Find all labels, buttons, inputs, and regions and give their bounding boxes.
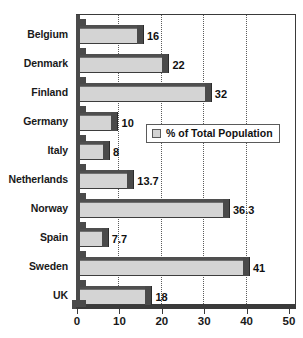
bar-end-cap — [243, 257, 250, 276]
axis-nub — [76, 222, 86, 229]
legend-entry-label: % of Total Population — [166, 128, 273, 139]
bar-body — [76, 28, 137, 44]
bar-end-cap — [111, 112, 118, 131]
bar-value-label: 41 — [253, 260, 265, 276]
category-label: Germany — [0, 116, 68, 127]
bar-top-edge — [80, 170, 131, 173]
bar-body — [76, 289, 145, 305]
bar-body — [76, 86, 205, 102]
bar-value-label: 8 — [113, 144, 119, 160]
category-label: Netherlands — [0, 174, 68, 185]
axis-nub — [76, 48, 86, 55]
bar-value-label: 36.3 — [233, 202, 254, 218]
bar-uk — [76, 286, 152, 305]
value-axis-spine — [76, 15, 80, 304]
bar-top-edge — [80, 25, 141, 28]
category-label: Italy — [0, 145, 68, 156]
x-tick-30 — [204, 309, 205, 314]
bar-body — [76, 260, 243, 276]
category-axis-labels: Belgium Denmark Finland Germany Italy Ne… — [0, 14, 72, 304]
bar-value-label: 16 — [147, 28, 159, 44]
bar-norway — [76, 199, 230, 218]
category-label: Belgium — [0, 29, 68, 40]
bar-top-edge — [80, 83, 209, 86]
bar-end-cap — [137, 25, 144, 44]
bar-end-cap — [127, 170, 134, 189]
bar-value-label: 13.7 — [137, 173, 158, 189]
category-label: Sweden — [0, 261, 68, 272]
bar-body — [76, 115, 111, 131]
bar-top-edge — [80, 54, 166, 57]
bar-body — [76, 173, 127, 189]
bar-value-label: 10 — [122, 115, 134, 131]
axis-nub — [76, 193, 86, 200]
x-tick-label: 40 — [240, 316, 253, 328]
x-tick-50 — [289, 309, 290, 314]
axis-nub — [76, 300, 86, 307]
bar-end-cap — [102, 228, 109, 247]
bar-denmark — [76, 54, 169, 73]
bar-value-label: 7.7 — [112, 231, 127, 247]
category-label: UK — [0, 290, 68, 301]
bar-netherlands — [76, 170, 134, 189]
x-tick-0 — [77, 309, 78, 314]
bar-spain — [76, 228, 109, 247]
axis-nub — [76, 164, 86, 171]
x-tick-label: 0 — [74, 316, 80, 328]
bar-end-cap — [223, 199, 230, 218]
bar-body — [76, 202, 223, 218]
axis-nub — [76, 106, 86, 113]
axis-nub — [76, 77, 86, 84]
bar-top-edge — [80, 199, 227, 202]
bar-body — [76, 144, 103, 160]
x-tick-10 — [119, 309, 120, 314]
category-label: Finland — [0, 87, 68, 98]
bar-top-edge — [80, 257, 247, 260]
x-tick-label: 50 — [283, 316, 296, 328]
bar-value-label: 18 — [156, 289, 168, 305]
bar-finland — [76, 83, 212, 102]
bar-germany — [76, 112, 118, 131]
bar-color-swatch-icon — [152, 129, 161, 138]
chart-legend: % of Total Population — [146, 124, 280, 143]
bar-body — [76, 57, 162, 73]
horizontal-bar-chart: Belgium Denmark Finland Germany Italy Ne… — [0, 0, 303, 338]
category-label: Denmark — [0, 58, 68, 69]
bar-end-cap — [162, 54, 169, 73]
category-label: Norway — [0, 203, 68, 214]
category-label: Spain — [0, 232, 68, 243]
bar-value-label: 22 — [172, 57, 184, 73]
x-tick-40 — [247, 309, 248, 314]
bar-end-cap — [205, 83, 212, 102]
bar-top-edge — [80, 286, 149, 289]
bar-end-cap — [103, 141, 110, 160]
x-tick-label: 30 — [198, 316, 211, 328]
bar-italy — [76, 141, 110, 160]
bar-sweden — [76, 257, 250, 276]
x-tick-20 — [162, 309, 163, 314]
axis-nub — [76, 135, 86, 142]
x-tick-label: 20 — [155, 316, 168, 328]
bar-belgium — [76, 25, 144, 44]
plot-area: 16 22 32 10 8 — [76, 14, 296, 304]
bar-value-label: 32 — [215, 86, 227, 102]
axis-nub — [76, 280, 86, 287]
bar-end-cap — [145, 286, 152, 305]
axis-nub — [76, 19, 86, 26]
x-tick-label: 10 — [113, 316, 126, 328]
axis-nub — [76, 251, 86, 258]
